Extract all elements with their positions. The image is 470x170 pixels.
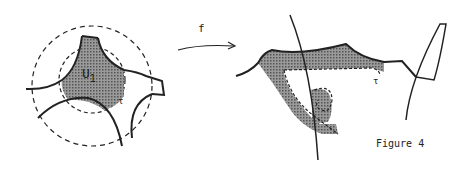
- region-label-u1: U1: [82, 66, 96, 84]
- map-label-f: f: [198, 22, 205, 35]
- left-panel: [26, 26, 164, 146]
- map-arrow: [178, 42, 235, 50]
- figure-caption: Figure 4: [376, 138, 424, 149]
- tau-label-left: τ: [118, 96, 123, 106]
- tau-label-right: τ: [373, 76, 378, 86]
